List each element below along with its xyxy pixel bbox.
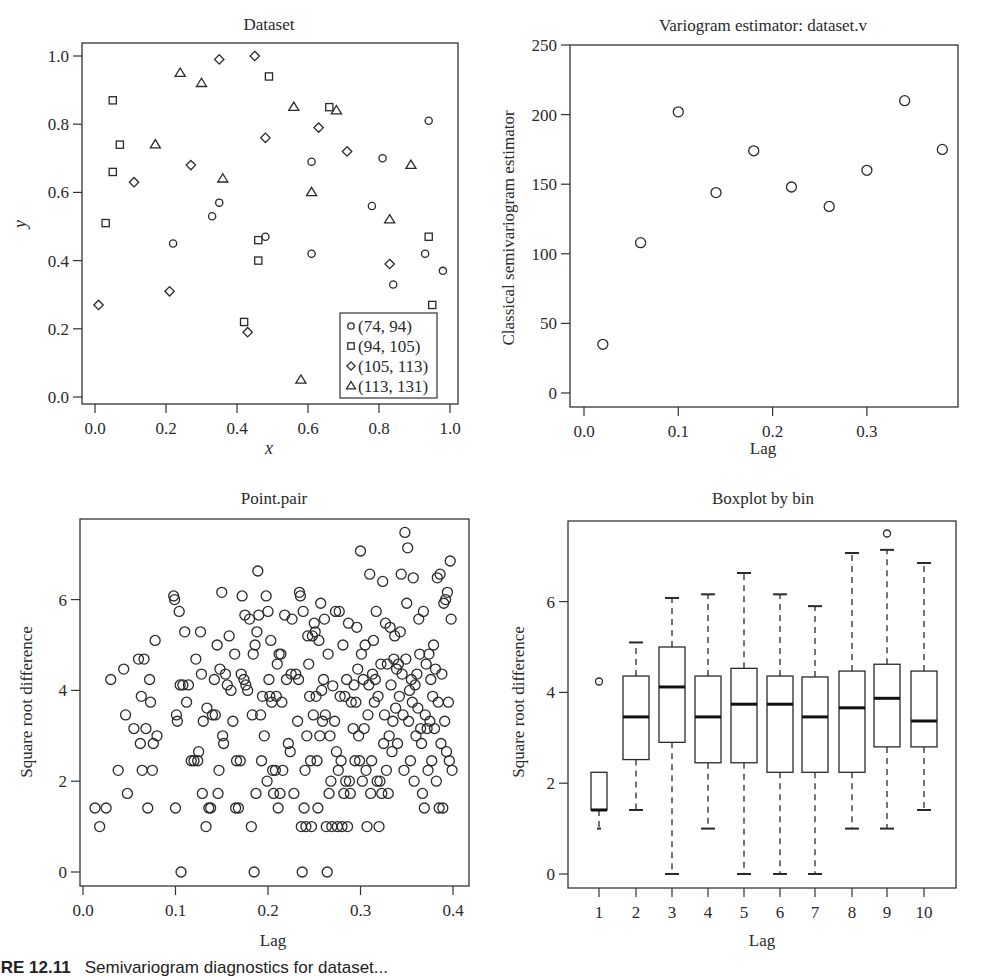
circle-marker	[824, 201, 834, 211]
circle-marker	[399, 765, 409, 775]
circle-marker	[318, 716, 328, 726]
circle-marker	[394, 691, 404, 701]
circle-marker	[331, 747, 341, 757]
circle-marker	[371, 606, 381, 616]
diamond-marker	[94, 300, 103, 309]
circle-marker	[430, 724, 440, 734]
legend-entry: (113, 131)	[358, 377, 428, 396]
circle-marker	[230, 649, 240, 659]
circle-marker	[201, 822, 211, 832]
circle-marker	[900, 96, 910, 106]
box-bin-2	[623, 642, 649, 810]
circle-marker	[444, 756, 454, 766]
y-tick-label: 0	[59, 863, 68, 882]
circle-marker	[300, 765, 310, 775]
circle-marker	[382, 659, 392, 669]
iqr-box	[874, 664, 900, 747]
circle-marker	[596, 678, 603, 685]
circle-marker	[277, 697, 287, 707]
circle-marker	[213, 788, 223, 798]
circle-marker	[417, 788, 427, 798]
x-tick-label: 2	[632, 903, 641, 922]
circle-marker	[121, 710, 131, 720]
boxplot-y-axis: 0246	[547, 593, 569, 884]
box-bin-1	[591, 678, 607, 829]
boxplot-x-axis: 12345678910	[595, 888, 933, 922]
triangle-marker	[150, 140, 160, 148]
circle-marker	[405, 756, 415, 766]
circle-marker	[447, 765, 457, 775]
circle-marker	[174, 606, 184, 616]
circle-marker	[445, 556, 455, 566]
diamond-marker	[186, 160, 195, 169]
circle-marker	[407, 697, 417, 707]
circle-marker	[345, 788, 355, 798]
y-tick-label: 0	[547, 865, 556, 884]
circle-marker	[322, 867, 332, 877]
legend-entry: (94, 105)	[358, 337, 420, 356]
x-tick-label: 5	[740, 903, 749, 922]
y-tick-label: 6	[59, 591, 68, 610]
circle-marker	[145, 675, 155, 685]
x-tick-label: 0.0	[84, 419, 105, 438]
circle-marker	[172, 716, 182, 726]
circle-marker	[368, 202, 375, 209]
circle-marker	[937, 144, 947, 154]
iqr-box	[767, 676, 793, 772]
x-tick-label: 0.2	[257, 901, 278, 920]
circle-marker	[358, 675, 368, 685]
square-marker	[109, 97, 116, 104]
x-tick-label: 8	[848, 903, 857, 922]
x-tick-label: 0.3	[856, 422, 877, 441]
circle-marker	[273, 803, 283, 813]
diamond-marker	[243, 328, 252, 337]
square-marker	[255, 257, 262, 264]
circle-marker	[390, 281, 397, 288]
circle-marker	[430, 664, 440, 674]
x-tick-label: 0.0	[573, 422, 594, 441]
circle-marker	[408, 573, 418, 583]
circle-marker	[312, 756, 322, 766]
y-tick-label: 150	[532, 175, 558, 194]
circle-marker	[259, 731, 269, 741]
pointpair-ylabel: Square root difference	[17, 626, 36, 778]
figure-caption: IRE 12.11Semivariogram diagnostics for d…	[0, 958, 388, 978]
variogram-xlabel: Lag	[750, 439, 777, 458]
circle-marker	[409, 776, 419, 786]
circle-marker	[348, 724, 358, 734]
circle-marker	[330, 716, 340, 726]
circle-marker	[216, 199, 223, 206]
circle-marker	[431, 776, 441, 786]
circle-marker	[363, 710, 373, 720]
circle-marker	[194, 747, 204, 757]
circle-marker	[198, 716, 208, 726]
circle-marker	[248, 649, 258, 659]
circle-marker	[786, 182, 796, 192]
boxplot-ylabel: Square root difference	[509, 626, 528, 778]
boxplot-boxes	[591, 530, 937, 874]
y-tick-label: 2	[59, 772, 68, 791]
caption-label: IRE 12.11	[0, 958, 71, 977]
circle-marker	[405, 685, 415, 695]
iqr-box	[731, 668, 757, 762]
triangle-marker	[196, 78, 206, 86]
circle-marker	[212, 640, 222, 650]
circle-marker	[308, 710, 318, 720]
circle-marker	[197, 788, 207, 798]
circle-marker	[354, 731, 364, 741]
x-tick-label: 3	[668, 903, 677, 922]
x-tick-label: 1	[595, 903, 604, 922]
circle-marker	[141, 724, 151, 734]
circle-marker	[106, 675, 116, 685]
circle-marker	[135, 739, 145, 749]
pointpair-x-axis: 0.00.10.20.30.4	[72, 886, 464, 920]
iqr-box	[911, 671, 937, 747]
circle-marker	[401, 654, 411, 664]
figure-canvas: Dataset 0.00.20.40.60.81.0 0.00.20.40.60…	[0, 0, 982, 980]
circle-marker	[427, 756, 437, 766]
circle-marker	[136, 691, 146, 701]
circle-marker	[275, 788, 285, 798]
circle-marker	[417, 739, 427, 749]
circle-marker	[196, 669, 206, 679]
circle-marker	[219, 739, 229, 749]
